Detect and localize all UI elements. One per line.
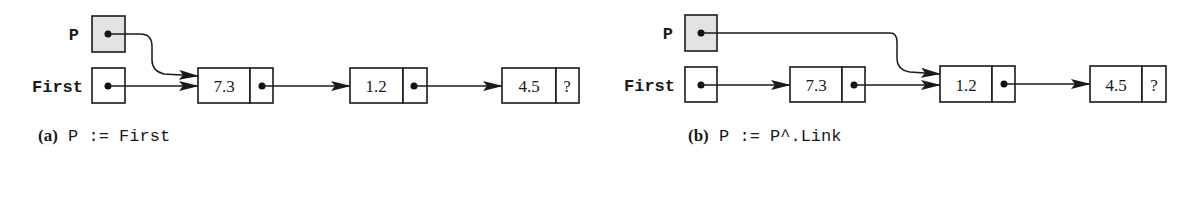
pointer-label-first: First bbox=[32, 78, 83, 97]
caption-a: (a) P := First bbox=[38, 126, 170, 146]
list-node: 4.5 ? bbox=[1090, 66, 1166, 102]
caption-b: (b) P := P^.Link bbox=[688, 126, 841, 146]
list-node: 7.3 bbox=[790, 67, 865, 102]
panel-a: P First 7.3 1.2 4.5 ? bbox=[32, 16, 579, 146]
node-link-unknown: ? bbox=[1150, 76, 1158, 95]
list-node: 1.2 bbox=[940, 66, 1015, 102]
list-node: 7.3 bbox=[198, 68, 273, 103]
list-node: 4.5 ? bbox=[502, 68, 579, 103]
node-value: 7.3 bbox=[805, 76, 826, 95]
pointer-label-p: P bbox=[69, 26, 79, 45]
node-value: 1.2 bbox=[955, 76, 976, 95]
linked-list-figure: P First 7.3 1.2 4.5 ? bbox=[0, 0, 1190, 198]
node-value: 4.5 bbox=[1105, 76, 1126, 95]
node-value: 7.3 bbox=[213, 77, 234, 96]
pointer-label-first: First bbox=[624, 77, 675, 96]
node-link-unknown: ? bbox=[563, 77, 571, 96]
panel-b: P First 7.3 1.2 4.5 ? bbox=[624, 15, 1166, 146]
pointer-label-p: P bbox=[663, 25, 673, 44]
node-value: 4.5 bbox=[518, 77, 539, 96]
node-value: 1.2 bbox=[365, 77, 386, 96]
